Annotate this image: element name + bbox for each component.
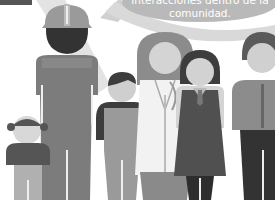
community-illustration: interacciones dentro de la comunidad. bbox=[0, 0, 275, 209]
caption-text: interacciones dentro de la comunidad. bbox=[130, 0, 270, 20]
figure-adult-right bbox=[232, 32, 275, 200]
community-figures-graphic bbox=[0, 0, 275, 209]
caption-line-1: interacciones dentro de la bbox=[130, 0, 270, 7]
tie-icon bbox=[197, 90, 203, 106]
figure-construction-worker bbox=[36, 4, 98, 200]
header-bar bbox=[0, 0, 32, 5]
caption-line-2: comunidad. bbox=[130, 7, 270, 20]
